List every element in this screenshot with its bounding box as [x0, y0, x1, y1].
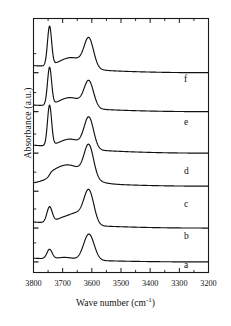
- spectra-curves: [34, 26, 209, 262]
- curve-label-a: a: [184, 260, 188, 270]
- spectra-plot: [0, 0, 231, 326]
- x-tick-label: 3600: [77, 279, 107, 288]
- x-tick-label: 3500: [106, 279, 136, 288]
- curve-label-c: c: [184, 199, 188, 209]
- x-tick-label: 3400: [135, 279, 165, 288]
- x-tick-label: 3300: [164, 279, 194, 288]
- x-axis-label: Wave number (cm-1): [0, 296, 231, 308]
- x-tick-label: 3800: [19, 279, 49, 288]
- plot-frame: [34, 19, 209, 273]
- x-axis-label-text: Wave number (cm: [76, 298, 146, 308]
- curve-label-d: d: [184, 166, 189, 176]
- x-tick-label: 3200: [194, 279, 224, 288]
- y-axis-label: Absorbance (a.u.): [23, 43, 33, 203]
- axis-ticks: [34, 19, 209, 273]
- curve-label-f: f: [184, 74, 187, 84]
- figure-container: Absorbance (a.u.) Wave number (cm-1) 380…: [0, 0, 231, 326]
- curve-label-b: b: [184, 231, 189, 241]
- x-tick-label: 3700: [48, 279, 78, 288]
- curve-label-e: e: [184, 117, 188, 127]
- x-axis-label-paren: ): [152, 298, 155, 308]
